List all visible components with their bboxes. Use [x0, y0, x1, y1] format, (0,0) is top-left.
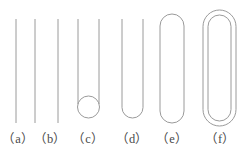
caption-label-b: （b） [34, 131, 66, 147]
figure-container: （a） （b） （c） （d） （e） （f） [0, 0, 247, 158]
caption-label-a: （a） [2, 131, 34, 147]
caption-label-f: （f） [204, 131, 236, 147]
shape-f-stadium-inner [208, 15, 231, 121]
shape-e-stadium [160, 14, 184, 123]
caption-label-e: （e） [156, 131, 188, 147]
caption-label-row: （a） （b） （c） （d） （e） （f） [0, 131, 247, 155]
caption-label-d: （d） [116, 131, 148, 147]
shape-d-hairpin [122, 19, 143, 118]
caption-label-c: （c） [72, 131, 104, 147]
shape-c-circle-loop [78, 96, 100, 118]
